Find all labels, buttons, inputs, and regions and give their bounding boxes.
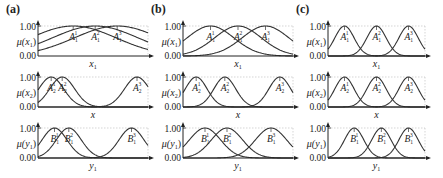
y-axis-label: μ(x1): [16, 36, 36, 48]
panel-a: (a)A11A12A131.000.00μ(x1)x1A21A22A231.00…: [6, 2, 154, 172]
series-label: A11: [339, 30, 349, 43]
series-label: B11: [350, 132, 359, 145]
subplot-3: B11B12B131.000.00μ(y1)y1: [16, 122, 154, 172]
series-label: B13: [405, 132, 414, 145]
series-label: A21: [191, 81, 201, 94]
y-axis-arrow-icon: [181, 71, 185, 76]
series-label: A13: [112, 30, 122, 43]
y-axis-label: μ(y1): [306, 138, 326, 150]
membership-curve: [183, 128, 293, 158]
series-label: B11: [51, 132, 60, 145]
subplot-2: A21A22A231.000.00μ(x2)x: [16, 71, 154, 120]
y-axis-arrow-icon: [181, 20, 185, 25]
series-label: B12: [377, 132, 386, 145]
membership-curve: [183, 26, 293, 56]
y-tick-label: 0.00: [164, 102, 181, 112]
y-axis-arrow-icon: [326, 122, 330, 127]
series-label: A23: [404, 81, 414, 94]
series-label: A13: [404, 30, 414, 43]
series-label: A22: [57, 81, 67, 94]
x-axis-arrow-icon: [149, 54, 154, 58]
y-tick-label: 1.00: [19, 124, 36, 134]
y-axis-arrow-icon: [36, 71, 40, 76]
y-tick-label: 1.00: [164, 124, 181, 134]
y-tick-label: 0.00: [19, 51, 36, 61]
subplot-3: B11B12B131.000.00μ(y1)y1: [161, 122, 299, 172]
panel-label: (b): [151, 2, 166, 16]
series-label: A21: [339, 81, 349, 94]
y-tick-label: 1.00: [309, 73, 326, 83]
series-label: A12: [372, 30, 382, 43]
y-tick-label: 1.00: [19, 73, 36, 83]
y-tick-label: 1.00: [19, 22, 36, 32]
y-axis-label: μ(x1): [306, 36, 326, 48]
x-axis-arrow-icon: [426, 105, 431, 109]
x-axis-label: x: [90, 109, 96, 120]
series-label: A22: [372, 81, 382, 94]
x-axis-label: y1: [88, 160, 96, 172]
y-axis-arrow-icon: [326, 71, 330, 76]
y-axis-arrow-icon: [181, 122, 185, 127]
x-axis-arrow-icon: [294, 105, 299, 109]
x-axis-arrow-icon: [426, 54, 431, 58]
series-label: B13: [128, 132, 137, 145]
subplot-2: A21A22A231.000.00μ(x2)x: [306, 71, 431, 120]
x-axis-label: x: [235, 109, 241, 120]
x-axis-arrow-icon: [149, 105, 154, 109]
y-tick-label: 0.00: [309, 102, 326, 112]
x-axis-label: x: [373, 109, 379, 120]
y-axis-label: μ(x2): [306, 87, 326, 99]
subplot-2: A21A22A231.000.00μ(x2)x: [161, 71, 299, 120]
panel-c: (c)A11A12A131.000.00μ(x1)x1A21A22A231.00…: [296, 2, 431, 172]
series-label: A13: [261, 30, 271, 43]
y-tick-label: 1.00: [164, 73, 181, 83]
y-tick-label: 0.00: [164, 153, 181, 163]
y-axis-label: μ(x2): [161, 87, 181, 99]
y-tick-label: 0.00: [309, 153, 326, 163]
series-label: A23: [132, 81, 142, 94]
panel-label: (c): [296, 2, 309, 16]
subplot-1: A11A12A131.000.00μ(x1)x1: [16, 20, 154, 70]
y-axis-arrow-icon: [326, 20, 330, 25]
series-label: B12: [65, 132, 74, 145]
series-label: A22: [220, 81, 230, 94]
x-axis-label: x1: [88, 58, 96, 70]
membership-curve: [183, 128, 293, 158]
series-label: A12: [90, 30, 100, 43]
x-axis-arrow-icon: [294, 156, 299, 160]
subplot-1: A11A12A131.000.00μ(x1)x1: [161, 20, 299, 70]
y-axis-label: μ(y1): [16, 138, 36, 150]
y-tick-label: 1.00: [309, 124, 326, 134]
y-axis-arrow-icon: [36, 122, 40, 127]
membership-curve: [183, 128, 293, 158]
panel-label: (a): [6, 2, 20, 16]
y-axis-label: μ(y1): [161, 138, 181, 150]
panel-b: (b)A11A12A131.000.00μ(x1)x1A21A22A231.00…: [151, 2, 299, 172]
y-tick-label: 1.00: [164, 22, 181, 32]
figure: (a)A11A12A131.000.00μ(x1)x1A21A22A231.00…: [0, 0, 443, 178]
x-axis-label: y1: [233, 160, 241, 172]
y-axis-arrow-icon: [36, 20, 40, 25]
series-label: B13: [267, 132, 276, 145]
subplot-1: A11A12A131.000.00μ(x1)x1: [306, 20, 431, 70]
y-tick-label: 0.00: [19, 153, 36, 163]
x-axis-label: y1: [372, 160, 380, 172]
x-axis-arrow-icon: [426, 156, 431, 160]
y-tick-label: 0.00: [164, 51, 181, 61]
y-tick-label: 0.00: [309, 51, 326, 61]
series-label: A23: [275, 81, 285, 94]
x-axis-label: x1: [233, 58, 241, 70]
y-axis-label: μ(x1): [161, 36, 181, 48]
x-axis-arrow-icon: [149, 156, 154, 160]
y-axis-label: μ(x2): [16, 87, 36, 99]
x-axis-arrow-icon: [294, 54, 299, 58]
series-label: B12: [223, 132, 232, 145]
subplot-3: B11B12B131.000.00μ(y1)y1: [306, 122, 431, 172]
y-tick-label: 0.00: [19, 102, 36, 112]
x-axis-label: x1: [372, 58, 380, 70]
y-tick-label: 1.00: [309, 22, 326, 32]
